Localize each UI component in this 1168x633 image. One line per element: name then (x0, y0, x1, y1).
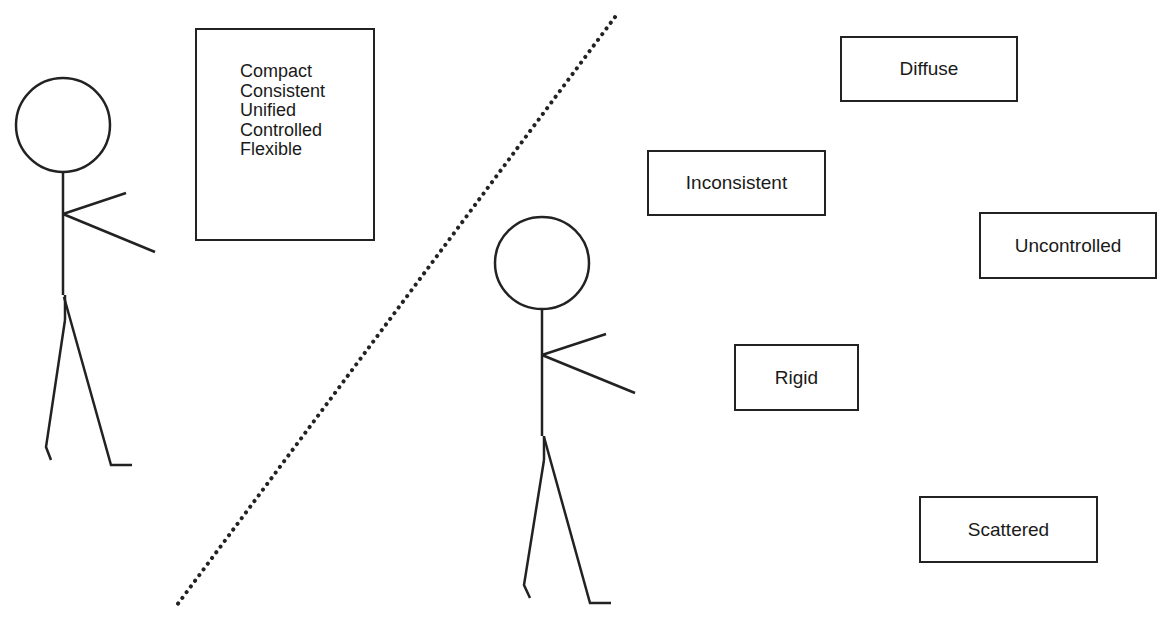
trait-box-label: Inconsistent (686, 172, 787, 194)
left-stick-figure (16, 78, 155, 465)
left-figure-head (16, 78, 110, 172)
trait-box-rigid: Rigid (734, 344, 859, 411)
trait-item: Compact (240, 62, 325, 82)
trait-item: Unified (240, 101, 325, 121)
trait-item: Consistent (240, 82, 325, 102)
trait-box-inconsistent: Inconsistent (647, 150, 826, 216)
right-stick-figure (495, 217, 635, 603)
trait-box-label: Diffuse (900, 58, 959, 80)
trait-box-diffuse: Diffuse (840, 36, 1018, 102)
trait-item: Controlled (240, 121, 325, 141)
trait-box-scattered: Scattered (919, 496, 1098, 563)
trait-box-label: Rigid (775, 367, 818, 389)
trait-box-uncontrolled: Uncontrolled (979, 212, 1157, 279)
positive-traits-list: Compact Consistent Unified Controlled Fl… (240, 62, 325, 160)
trait-item: Flexible (240, 140, 325, 160)
trait-box-label: Uncontrolled (1015, 235, 1122, 257)
trait-box-label: Scattered (968, 519, 1049, 541)
right-figure-head (495, 217, 589, 309)
